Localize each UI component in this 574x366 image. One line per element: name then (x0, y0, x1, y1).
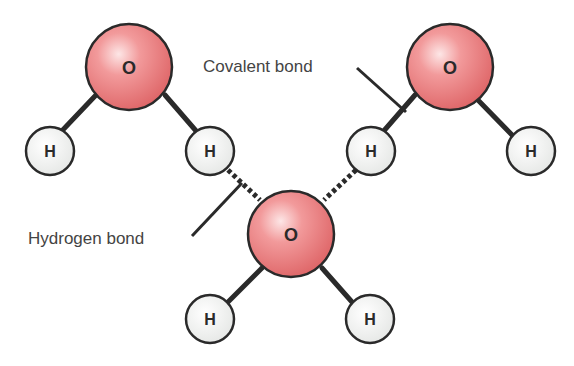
hydrogen-bond-line (324, 170, 356, 200)
hydrogen-bond-label: Hydrogen bond (28, 229, 144, 248)
covalent-bond-leader-line (357, 68, 406, 112)
covalent-bond-label: Covalent bond (203, 57, 313, 76)
oxygen-symbol: O (122, 58, 136, 78)
covalent-bond-line (382, 95, 415, 133)
hydrogen-bond-leader-line (192, 183, 242, 236)
water-molecule-top-left: O H H (26, 24, 234, 175)
hydrogen-symbol: H (364, 311, 376, 328)
covalent-bond-line (165, 95, 197, 132)
covalent-bond-line (475, 97, 515, 138)
covalent-bond-line (228, 268, 262, 302)
hydrogen-symbol: H (525, 143, 537, 160)
hydrogen-symbol: H (204, 311, 216, 328)
water-hydrogen-bond-diagram: O H H O H H O H H Covalent bond Hydrogen… (0, 0, 574, 366)
hydrogen-bond-line (228, 170, 260, 200)
oxygen-symbol: O (284, 225, 298, 245)
hydrogen-symbol: H (44, 143, 56, 160)
hydrogen-symbol: H (204, 143, 216, 160)
hydrogen-symbol: H (365, 143, 377, 160)
covalent-bond-line (322, 268, 352, 302)
water-molecule-bottom-center: O H H (186, 191, 394, 343)
oxygen-symbol: O (443, 58, 457, 78)
covalent-bond-line (58, 95, 96, 135)
water-molecule-top-right: O H H (347, 24, 555, 175)
